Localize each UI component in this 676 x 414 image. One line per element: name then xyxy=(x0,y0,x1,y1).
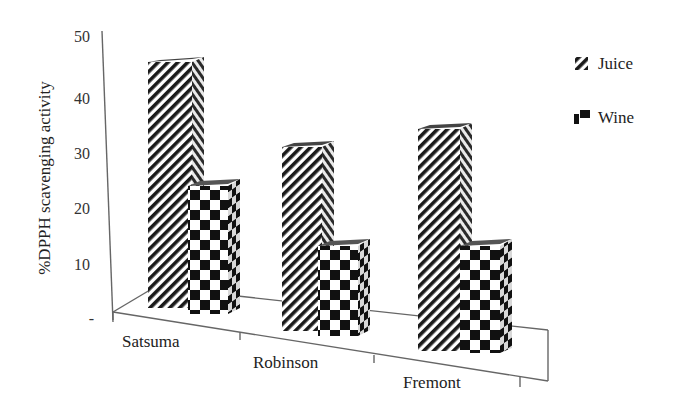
svg-text:-: - xyxy=(89,310,94,327)
legend: Juice Wine xyxy=(574,54,634,127)
svg-text:Wine: Wine xyxy=(598,108,634,127)
bar-fremont-wine xyxy=(460,239,512,353)
dpph-bar-chart: %DPPH scavenging activity 50 40 30 20 10… xyxy=(0,0,676,414)
juice-swatch-icon xyxy=(575,57,588,70)
y-axis-ticks: 50 40 30 20 10 - xyxy=(74,28,94,327)
legend-item-wine: Wine xyxy=(574,108,634,127)
svg-text:Fremont: Fremont xyxy=(403,373,461,392)
svg-text:Juice: Juice xyxy=(598,54,633,73)
y-axis-label: %DPPH scavenging activity xyxy=(35,81,54,275)
legend-item-juice: Juice xyxy=(575,54,633,73)
svg-text:30: 30 xyxy=(74,145,90,162)
bar-robinson-wine xyxy=(318,239,370,336)
svg-text:Satsuma: Satsuma xyxy=(122,332,180,351)
svg-text:20: 20 xyxy=(74,200,90,217)
wine-swatch-icon xyxy=(574,110,590,124)
svg-text:40: 40 xyxy=(74,90,90,107)
svg-text:50: 50 xyxy=(74,28,90,45)
bar-satsuma-wine xyxy=(188,179,240,314)
svg-text:Robinson: Robinson xyxy=(253,353,319,372)
svg-text:10: 10 xyxy=(74,256,90,273)
bars xyxy=(148,57,512,353)
